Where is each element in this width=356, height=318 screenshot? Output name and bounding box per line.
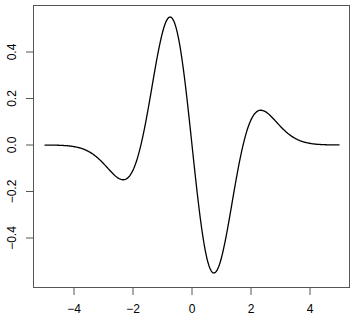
data-line — [45, 17, 340, 273]
y-axis: −0.4−0.20.00.20.4 — [5, 43, 33, 250]
y-tick-label: −0.2 — [5, 179, 19, 203]
y-tick-label: 0.0 — [5, 136, 19, 153]
x-tick-label: −2 — [126, 302, 140, 316]
x-tick-label: 4 — [307, 302, 314, 316]
x-axis: −4−2024 — [67, 288, 314, 316]
y-tick-label: 0.4 — [5, 43, 19, 60]
x-tick-label: 0 — [189, 302, 196, 316]
y-tick-label: 0.2 — [5, 90, 19, 107]
x-tick-label: −4 — [67, 302, 81, 316]
y-tick-label: −0.4 — [5, 226, 19, 250]
plot-frame — [34, 6, 350, 288]
x-tick-label: 2 — [248, 302, 255, 316]
line-chart: −0.4−0.20.00.20.4 −4−2024 — [0, 0, 356, 318]
